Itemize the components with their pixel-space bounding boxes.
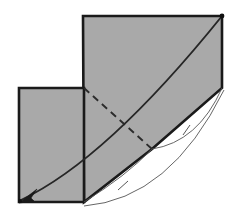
vertex-dot-top-right <box>220 14 225 19</box>
vertex-dot-bottom-left <box>18 199 22 203</box>
large-quadrilateral-shape <box>83 16 222 202</box>
figure-canvas <box>0 0 236 219</box>
left-rectangle-shape <box>19 88 84 202</box>
geometry-diagram-svg <box>0 0 236 219</box>
congruence-tick-lower-mark <box>118 181 128 190</box>
